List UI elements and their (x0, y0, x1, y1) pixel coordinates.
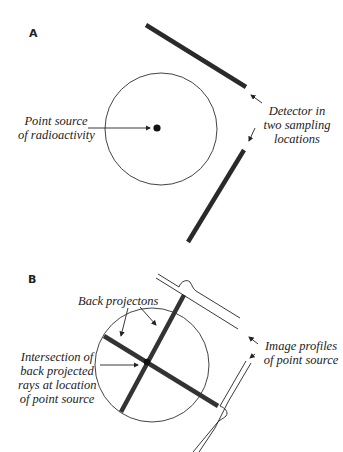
intersection-caption-line: back projected (18, 364, 96, 378)
intersection-caption-line: rays at location (18, 378, 96, 392)
point-source-caption-line: of radioactivity (18, 128, 94, 142)
detector-arrow-lower (249, 128, 255, 141)
detector-upper (146, 25, 246, 87)
image-profiles-caption: Image profiles of point source (262, 339, 340, 367)
panel-a-graphics (88, 25, 262, 242)
back-projection-arrow-1 (121, 308, 128, 336)
panel-b-label: B (28, 273, 36, 286)
intersection-dot (144, 359, 150, 365)
back-projection-arrow-2 (140, 307, 156, 325)
tomography-diagram: A Point source of radioactivity Detector… (0, 0, 343, 452)
profile-arrow-upper (249, 337, 258, 344)
detector-caption-line: locations (258, 132, 336, 146)
image-profile-lower (193, 361, 251, 452)
detector-lower (188, 150, 244, 242)
image-profiles-caption-line: of point source (262, 353, 340, 367)
panel-a-label: A (29, 27, 38, 40)
detector-arrow-upper (251, 95, 262, 103)
image-profiles-caption-line: Image profiles (262, 339, 340, 353)
point-source-caption-line: Point source (18, 114, 94, 128)
detector-caption: Detector in two sampling locations (258, 104, 336, 146)
intersection-caption: Intersection of back projected rays at l… (18, 350, 96, 406)
back-projections-caption: Back projectons (78, 294, 154, 308)
point-source-dot (153, 124, 160, 131)
detector-caption-line: Detector in (258, 104, 336, 118)
back-projection-ray-2 (104, 336, 218, 406)
intersection-caption-line: Intersection of (18, 350, 96, 364)
detector-caption-line: two sampling (258, 118, 336, 132)
point-source-caption: Point source of radioactivity (18, 114, 94, 142)
field-of-view-circle-a (105, 73, 217, 185)
intersection-caption-line: of point source (18, 392, 96, 406)
profile-arrow-lower (250, 354, 255, 358)
